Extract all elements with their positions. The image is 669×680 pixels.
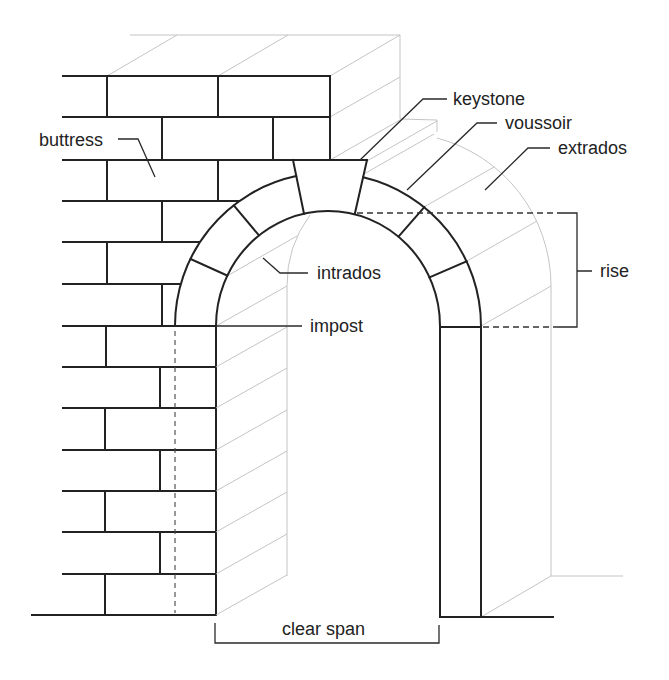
buttress-wall — [32, 76, 367, 615]
rise-bracket — [557, 213, 592, 327]
label-keystone: keystone — [453, 89, 525, 109]
label-extrados: extrados — [558, 138, 627, 158]
label-rise: rise — [600, 261, 629, 281]
arch-diagram: buttress keystone voussoir extrados intr… — [0, 0, 669, 680]
right-pier — [440, 326, 553, 617]
label-intrados: intrados — [317, 263, 381, 283]
back-extrados-arc — [437, 138, 623, 617]
brick-joints — [105, 76, 330, 615]
arch-mask — [175, 173, 481, 326]
extrados-leader — [485, 148, 550, 190]
keystone-leader — [360, 99, 447, 160]
brick-courses — [32, 76, 367, 615]
label-clear-span: clear span — [282, 619, 365, 639]
wall-top-face-lines — [107, 35, 400, 76]
label-buttress: buttress — [39, 130, 103, 150]
label-impost: impost — [310, 316, 363, 336]
label-voussoir: voussoir — [505, 113, 572, 133]
buttress-leader — [118, 139, 155, 177]
wall-side-face-lines — [330, 35, 437, 174]
labels: buttress keystone voussoir extrados intr… — [39, 89, 629, 639]
voussoir-leader — [407, 123, 497, 190]
